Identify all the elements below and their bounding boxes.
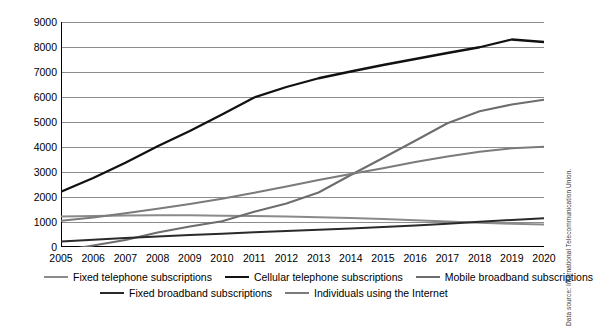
- legend-label: Fixed telephone subscriptions: [73, 271, 212, 283]
- y-tick-label: 6000: [9, 92, 57, 102]
- legend-line-swatch: [100, 292, 124, 294]
- legend-line-swatch: [44, 276, 68, 278]
- y-tick-label: 8000: [9, 42, 57, 52]
- x-axis: 2005200620072008200920102011201220132014…: [61, 252, 544, 268]
- legend-row-2: Fixed broadband subscriptionsIndividuals…: [44, 286, 564, 299]
- legend-item[interactable]: Fixed broadband subscriptions: [100, 287, 272, 299]
- legend-label: Cellular telephone subscriptions: [254, 271, 403, 283]
- chart-legend: Fixed telephone subscriptionsCellular te…: [44, 270, 564, 302]
- legend-item[interactable]: Cellular telephone subscriptions: [225, 271, 403, 283]
- series-line-1: [61, 40, 544, 192]
- y-axis: 0100020003000400050006000700080009000: [5, 22, 57, 247]
- legend-line-swatch: [416, 276, 440, 278]
- y-tick-label: 2000: [9, 192, 57, 202]
- y-tick-label: 0: [9, 242, 57, 252]
- source-note: Data source: International Telecommunica…: [565, 176, 573, 326]
- legend-line-swatch: [285, 292, 309, 294]
- y-tick-label: 3000: [9, 167, 57, 177]
- chart-figure: 0100020003000400050006000700080009000 20…: [0, 0, 602, 329]
- legend-item[interactable]: Individuals using the Internet: [285, 287, 448, 299]
- series-group: [61, 40, 544, 248]
- plot-area: [61, 22, 544, 247]
- legend-row-1: Fixed telephone subscriptionsCellular te…: [44, 270, 564, 283]
- y-tick-label: 5000: [9, 117, 57, 127]
- legend-item[interactable]: Fixed telephone subscriptions: [44, 271, 212, 283]
- line-chart-svg: [61, 22, 544, 247]
- y-tick-label: 4000: [9, 142, 57, 152]
- y-tick-label: 1000: [9, 217, 57, 227]
- x-tick-label: 2020: [524, 252, 564, 264]
- legend-label: Individuals using the Internet: [314, 287, 448, 299]
- legend-line-swatch: [225, 276, 249, 278]
- legend-label: Fixed broadband subscriptions: [129, 287, 272, 299]
- y-tick-label: 7000: [9, 67, 57, 77]
- y-tick-label: 9000: [9, 17, 57, 27]
